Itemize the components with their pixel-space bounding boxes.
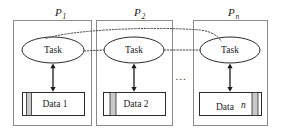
task-label-pn: Task [221,45,239,55]
process-group-pn: P n Task Data n [194,6,268,126]
process-group-p2: P 2 Task Data 2 [97,6,173,126]
process-task-data-diagram: P 1 Task Data 1 P 2 Task Data 2 [0,0,281,136]
task-label-p2: Task [125,45,143,55]
figure-canvas: P 1 Task Data 1 P 2 Task Data 2 [0,0,281,136]
process-label-p2-base: P [133,6,141,18]
data-label-pn-base: Data [216,102,235,112]
data-label-p1: Data 1 [42,99,67,109]
data-label-pn-index: n [241,100,246,110]
process-label-pn-subscript: n [236,12,240,21]
data-label-p2: Data 2 [123,99,148,109]
data-partition-stripe-p2 [110,93,116,116]
task-label-p1: Task [44,45,62,55]
process-ellipsis: ... [175,70,186,82]
data-partition-stripe-p1 [27,93,32,116]
process-label-p1-base: P [54,6,62,18]
process-group-p1: P 1 Task Data 1 [14,6,92,126]
process-label-p2-subscript: 2 [142,12,146,21]
data-partition-stripe-pn [252,93,258,116]
process-label-p1-subscript: 1 [63,12,67,21]
process-label-pn-base: P [227,6,235,18]
